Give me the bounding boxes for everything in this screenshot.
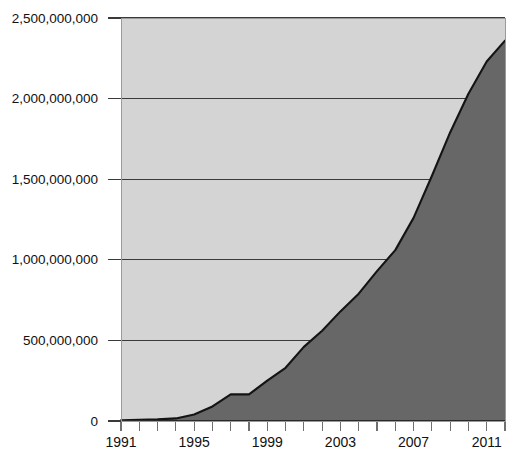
- x-tick-label-1991: 1991: [105, 434, 136, 450]
- x-tick-label-1999: 1999: [252, 434, 283, 450]
- chart-svg: 0500,000,0001,000,000,0001,500,000,0002,…: [0, 0, 519, 466]
- y-tick-label-2: 1,000,000,000: [12, 252, 98, 267]
- y-tick-label-1: 500,000,000: [23, 333, 98, 348]
- x-tick-label-2003: 2003: [325, 434, 356, 450]
- y-tick-label-0: 0: [90, 414, 98, 429]
- y-tick-label-5: 2,500,000,000: [12, 11, 98, 26]
- x-tick-label-2011: 2011: [472, 434, 502, 450]
- x-tick-label-2007: 2007: [398, 434, 429, 450]
- y-tick-label-4: 2,000,000,000: [12, 91, 98, 106]
- chart-figure: 0500,000,0001,000,000,0001,500,000,0002,…: [0, 0, 519, 466]
- y-tick-label-3: 1,500,000,000: [12, 172, 98, 187]
- x-tick-label-1995: 1995: [179, 434, 210, 450]
